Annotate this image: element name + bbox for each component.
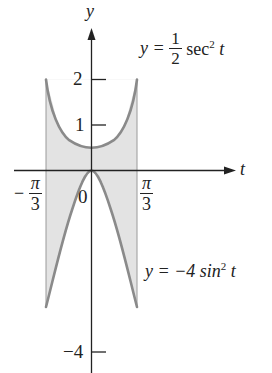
tick-label-2: 2 (73, 68, 83, 90)
minus-sign: − (14, 183, 24, 203)
fraction: π 3 (29, 174, 42, 213)
fraction: 1 2 (169, 30, 182, 67)
numerator: π (29, 174, 42, 194)
function-name: sec (186, 39, 209, 59)
t-axis-arrow (224, 167, 236, 175)
variable: t (231, 261, 236, 281)
numerator: π (140, 174, 153, 194)
y-axis-label: y (86, 1, 94, 22)
denominator: 3 (140, 194, 153, 213)
fraction: π 3 (140, 174, 153, 213)
sin-curve-equation: y = −4 sin2 t (145, 260, 236, 282)
y-axis-arrow (88, 28, 96, 40)
exponent: 2 (209, 38, 215, 50)
exponent: 2 (221, 260, 227, 272)
equation-text: y = −4 sin (145, 261, 221, 281)
tick-label-1: 1 (75, 114, 85, 136)
neg-pi-over-3-label: − π 3 (14, 174, 42, 213)
equation-prefix: y = (140, 38, 169, 58)
denominator: 2 (169, 49, 182, 67)
sec-curve-equation: y = 1 2 sec2 t (140, 30, 224, 67)
pi-over-3-label: π 3 (140, 174, 153, 213)
denominator: 3 (29, 194, 42, 213)
t-axis-label: t (240, 159, 245, 180)
origin-label: 0 (78, 186, 88, 208)
numerator: 1 (169, 30, 182, 49)
tick-label-neg4: −4 (63, 341, 83, 363)
variable: t (219, 39, 224, 59)
